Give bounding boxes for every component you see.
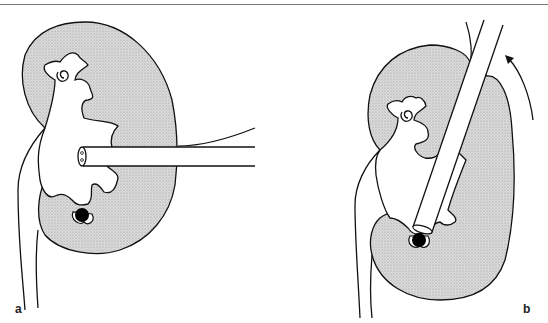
kidney-illustration — [0, 0, 548, 323]
scope-tip-a — [78, 147, 86, 166]
kidney-stone-a — [75, 208, 89, 222]
panel-label-b: b — [523, 302, 530, 316]
guide-wire-a — [178, 128, 255, 146]
panel-label-a: a — [15, 302, 22, 316]
ureter-inner-a — [36, 230, 38, 308]
nephroscope-sheath-a — [80, 147, 255, 166]
panel-a — [18, 22, 255, 310]
kidney-stone-b — [412, 233, 426, 247]
panel-b — [355, 20, 533, 318]
ureter-inner-b — [371, 255, 373, 318]
rotation-arrow-icon — [508, 58, 533, 120]
